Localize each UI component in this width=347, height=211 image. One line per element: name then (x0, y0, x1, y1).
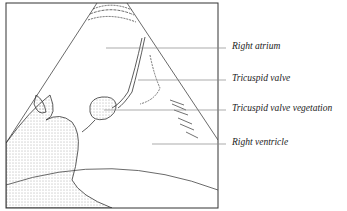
label-right-ventricle: Right ventricle (232, 137, 288, 147)
label-tricuspid-valve: Tricuspid valve (232, 73, 290, 83)
label-tricuspid-valve-vegetation: Tricuspid valve vegetation (232, 103, 332, 113)
label-right-atrium: Right atrium (232, 41, 280, 51)
